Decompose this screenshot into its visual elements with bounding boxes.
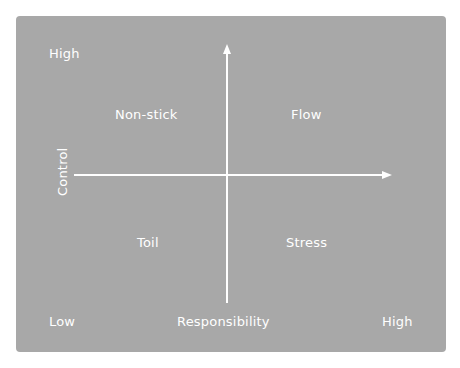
y-axis-high-label: High xyxy=(49,47,80,60)
x-axis-high-label: High xyxy=(382,315,413,328)
y-axis-label: Control xyxy=(56,148,69,196)
x-axis-low-label: Low xyxy=(49,315,75,328)
x-axis-line xyxy=(74,174,384,176)
y-axis-line xyxy=(226,52,228,303)
quadrant-diagram: High Control Non-stick Flow Toil Stress … xyxy=(16,16,446,352)
quadrant-top-left-label: Non-stick xyxy=(115,108,178,121)
x-axis-arrow-icon xyxy=(382,171,392,179)
quadrant-top-right-label: Flow xyxy=(291,108,321,121)
x-axis-label: Responsibility xyxy=(177,315,270,328)
y-axis-arrow-icon xyxy=(223,44,231,54)
quadrant-bottom-left-label: Toil xyxy=(137,236,159,249)
quadrant-bottom-right-label: Stress xyxy=(286,236,327,249)
